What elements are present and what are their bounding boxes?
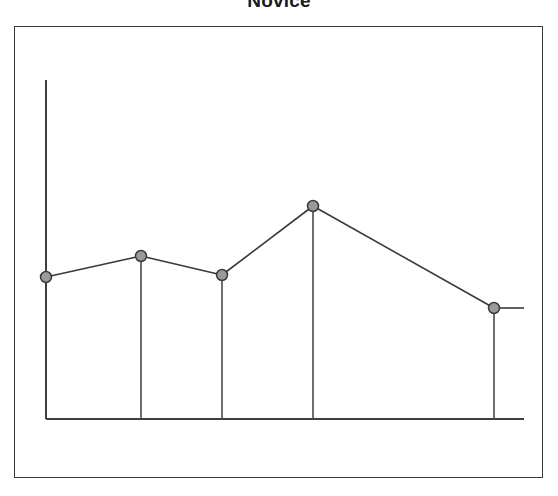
line-chart xyxy=(0,0,558,496)
data-point-marker xyxy=(217,270,228,281)
chart-figure: Novice xyxy=(0,0,558,496)
drop-lines-group xyxy=(141,206,494,419)
data-point-marker xyxy=(308,201,319,212)
data-point-marker xyxy=(136,251,147,262)
data-point-marker xyxy=(489,303,500,314)
axes xyxy=(46,80,524,419)
data-point-marker xyxy=(41,272,52,283)
series-line xyxy=(46,206,494,308)
data-markers-group xyxy=(41,201,500,314)
data-series xyxy=(46,206,524,308)
